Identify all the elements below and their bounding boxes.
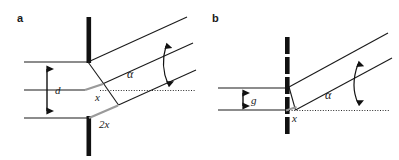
- panel-b-barrier-seg-2: [285, 57, 290, 74]
- panel-a-label: a: [17, 12, 24, 24]
- panel-b-barrier-seg-3: [285, 77, 290, 94]
- panel-a-label-x: x: [94, 91, 100, 103]
- panel-b-barrier-seg-1: [285, 37, 290, 54]
- panel-a-barrier-upper: [87, 17, 92, 63]
- figure-container: a d x 2x α: [0, 0, 399, 160]
- panel-a-label-d: d: [55, 84, 61, 96]
- panel-b-label-x: x: [291, 112, 297, 124]
- panel-a-offset-x-marker: [85, 84, 103, 90]
- panel-a: a d x 2x α: [17, 12, 196, 156]
- panel-b-label-g: g: [251, 94, 257, 106]
- panel-b-label: b: [212, 12, 219, 24]
- panel-b-downstream-bottom-wall: [296, 58, 393, 110]
- panel-a-downstream-top-wall: [88, 17, 187, 62]
- panel-a-throat-edge-lower: [104, 84, 119, 106]
- panel-a-label-alpha: α: [127, 67, 134, 81]
- panel-b: b g x α: [212, 12, 392, 134]
- panel-a-offset-2x-marker: [89, 106, 118, 119]
- panel-a-label-2x: 2x: [99, 118, 110, 130]
- panel-b-downstream-top-wall: [289, 33, 388, 87]
- panel-a-barrier-lower: [87, 116, 92, 156]
- panel-a-throat-edge-upper: [88, 62, 104, 84]
- panel-a-angle-arc: [163, 46, 168, 84]
- diagram-svg: a d x 2x α: [0, 0, 399, 160]
- panel-b-angle-arc: [354, 64, 358, 103]
- panel-b-label-alpha: α: [325, 88, 332, 102]
- panel-b-barrier-seg-5: [285, 117, 290, 134]
- panel-b-barrier-seg-4: [285, 97, 290, 114]
